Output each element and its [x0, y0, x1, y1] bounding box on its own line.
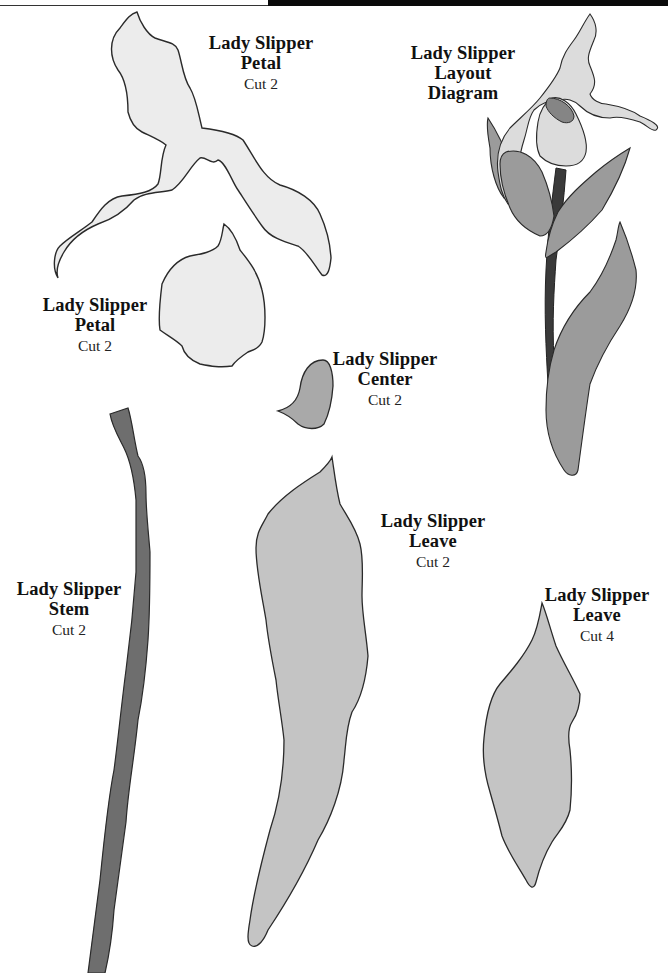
label-title: Lady Slipper — [532, 586, 662, 606]
label-title: Diagram — [408, 84, 518, 104]
label-petal-upper: Lady Slipper Petal Cut 2 — [196, 34, 326, 93]
label-title: Lady Slipper — [408, 44, 518, 64]
label-cut-count: Cut 2 — [320, 392, 450, 409]
label-stem: Lady Slipper Stem Cut 2 — [4, 580, 134, 639]
label-cut-count: Cut 4 — [532, 628, 662, 645]
stem-shape — [88, 408, 150, 973]
label-title: Lady Slipper — [368, 512, 498, 532]
leave-small-shape — [483, 603, 580, 887]
label-layout-diagram: Lady Slipper Layout Diagram — [408, 44, 518, 104]
label-title: Leave — [368, 532, 498, 552]
label-cut-count: Cut 2 — [4, 622, 134, 639]
label-title: Leave — [532, 606, 662, 626]
label-title: Petal — [196, 54, 326, 74]
leave-large-shape — [248, 457, 368, 946]
label-cut-count: Cut 2 — [30, 338, 160, 355]
label-title: Lady Slipper — [4, 580, 134, 600]
label-title: Lady Slipper — [30, 296, 160, 316]
label-title: Center — [320, 370, 450, 390]
label-title: Petal — [30, 316, 160, 336]
label-title: Stem — [4, 600, 134, 620]
label-petal-lower: Lady Slipper Petal Cut 2 — [30, 296, 160, 355]
pattern-artwork — [0, 0, 668, 973]
label-center: Lady Slipper Center Cut 2 — [320, 350, 450, 409]
diagram-leaf-lower — [546, 222, 636, 475]
label-cut-count: Cut 2 — [196, 76, 326, 93]
label-cut-count: Cut 2 — [368, 554, 498, 571]
label-leave-small: Lady Slipper Leave Cut 4 — [532, 586, 662, 645]
label-title: Layout — [408, 64, 518, 84]
label-title: Lady Slipper — [320, 350, 450, 370]
label-title: Lady Slipper — [196, 34, 326, 54]
petal-lower-shape — [159, 224, 265, 367]
label-leave-large: Lady Slipper Leave Cut 2 — [368, 512, 498, 571]
diagram-leaf-left — [500, 151, 554, 236]
